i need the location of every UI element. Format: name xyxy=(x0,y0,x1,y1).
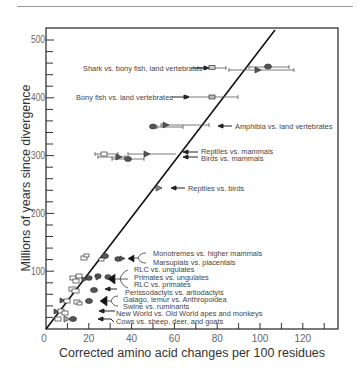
label-birds-mammals: Birds vs. mammals xyxy=(201,154,264,163)
annotation-labels: Shark vs. bony fish, land vertebrates Bo… xyxy=(76,64,333,326)
label-monotremes: Monotremes vs. higher mammals xyxy=(153,249,263,258)
svg-text:80: 80 xyxy=(212,333,224,344)
x-tick-labels: 0 20 40 60 80 100 120 xyxy=(41,333,311,344)
svg-text:100: 100 xyxy=(31,266,45,277)
label-amphibia: Amphibia vs. land vertebrates xyxy=(235,122,333,131)
svg-text:0: 0 xyxy=(41,333,47,344)
x-axis-title: Corrected amino acid changes per 100 res… xyxy=(59,346,325,360)
svg-text:120: 120 xyxy=(294,333,311,344)
svg-text:200: 200 xyxy=(31,208,45,219)
y-tick-labels: 100 200 300 400 500 xyxy=(31,34,45,276)
svg-text:60: 60 xyxy=(169,333,181,344)
svg-text:20: 20 xyxy=(83,333,95,344)
label-bony-fish: Bony fish vs. land vertebrates xyxy=(76,93,173,102)
svg-text:100: 100 xyxy=(252,333,269,344)
svg-text:500: 500 xyxy=(31,34,45,45)
label-cows: Cows vs. sheep, deer, and goats xyxy=(116,317,224,326)
y-axis-ticks xyxy=(46,40,54,317)
chart: 0 20 40 60 80 100 120 100 200 300 400 50… xyxy=(0,0,358,375)
svg-text:400: 400 xyxy=(31,92,45,103)
label-reptiles-birds: Reptiles vs. birds xyxy=(188,184,245,193)
plot-frame xyxy=(46,28,338,329)
label-shark: Shark vs. bony fish, land vertebrates xyxy=(83,64,203,73)
y-axis-title: Millions of years since divergence xyxy=(19,85,33,272)
svg-text:300: 300 xyxy=(31,150,45,161)
svg-text:40: 40 xyxy=(126,333,138,344)
